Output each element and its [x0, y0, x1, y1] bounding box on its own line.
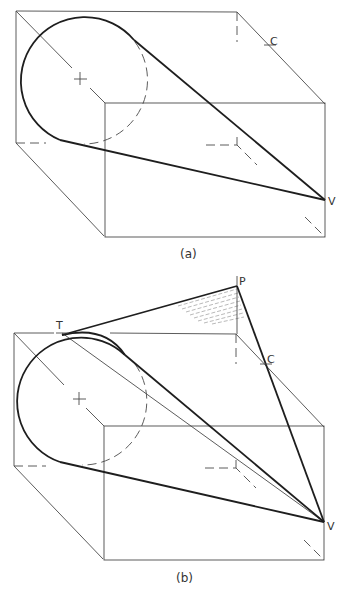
hidden-circle-arc	[84, 42, 148, 144]
figure-a: C V (a)	[16, 11, 336, 261]
lower-tangent	[60, 140, 325, 200]
caption-b: (b)	[176, 571, 193, 585]
figure-b: T P C V (b)	[14, 275, 335, 585]
circle-outline	[17, 338, 125, 462]
diag-top-left-2	[86, 408, 104, 426]
t-to-p-line	[62, 286, 237, 335]
t-to-v-line	[62, 333, 324, 522]
label-v: V	[328, 195, 336, 208]
diag-top-right	[236, 334, 324, 427]
hatching	[178, 289, 244, 324]
hidden-corner	[205, 468, 256, 488]
caption-a: (a)	[180, 247, 197, 261]
hidden-circle-arc	[82, 364, 147, 465]
label-c: C	[270, 35, 278, 48]
hidden-corner	[206, 145, 257, 165]
technical-drawing: C V (a)	[0, 0, 345, 601]
diag-bottom-left	[14, 466, 103, 559]
lower-tangent	[60, 462, 324, 522]
label-c: C	[267, 353, 275, 366]
circle-outline	[21, 17, 134, 140]
hidden-bottom-right	[305, 217, 325, 237]
upper-tangent	[134, 40, 325, 200]
label-v: V	[327, 520, 335, 533]
diag-top-right	[237, 12, 325, 104]
diag-top-left-2	[90, 88, 105, 103]
circle-top-arc	[62, 333, 125, 356]
hidden-bottom-right	[304, 540, 324, 560]
front-face	[104, 426, 324, 560]
back-top-edge	[16, 11, 237, 12]
label-t: T	[55, 319, 63, 332]
diag-bottom-left	[16, 143, 104, 236]
back-top-edge-right	[110, 333, 236, 334]
label-p: P	[239, 275, 246, 288]
front-face	[105, 103, 325, 237]
